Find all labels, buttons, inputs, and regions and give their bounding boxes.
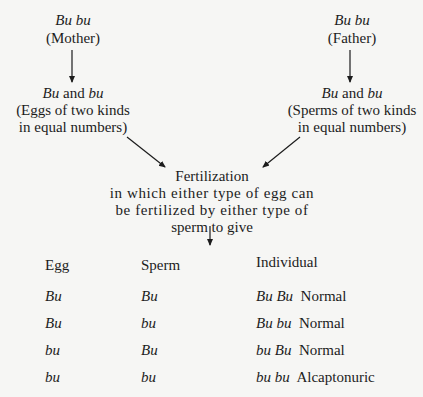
row2-individual: Bu bu Normal [256, 315, 345, 332]
fertilization-line2: be fertilized by either type of [115, 202, 308, 219]
row4-egg: bu [45, 369, 60, 386]
row1-egg: Bu [45, 288, 62, 305]
row1-sperm: Bu [141, 288, 158, 305]
father-genotype: Bu bu [334, 12, 369, 29]
row3-sperm: Bu [141, 342, 158, 359]
father-desc-line2: in equal numbers) [298, 119, 406, 136]
sperms-to-fertilization-arrow [263, 137, 300, 167]
header-egg: Egg [45, 257, 69, 274]
mother-genotype: Bu bu [55, 12, 90, 29]
fertilization-line1: in which either type of egg can [110, 185, 314, 202]
row4-sperm: bu [141, 369, 156, 386]
row2-sperm: bu [141, 315, 156, 332]
father-label: (Father) [328, 30, 376, 47]
mother-label: (Mother) [46, 30, 100, 47]
mother-gametes: Bu and bu [43, 85, 104, 102]
father-gametes: Bu and bu [322, 85, 383, 102]
mother-desc-line1: (Eggs of two kinds [16, 102, 130, 119]
header-individual: Individual [256, 254, 318, 271]
fertilization-line3: sperm to give [171, 219, 253, 236]
fertilization-title: Fertilization [175, 168, 248, 185]
row1-individual: Bu Bu Normal [256, 288, 346, 305]
father-desc-line1: (Sperms of two kinds [288, 102, 417, 119]
header-sperm: Sperm [141, 257, 180, 274]
eggs-to-fertilization-arrow [127, 137, 165, 167]
row2-egg: Bu [45, 315, 62, 332]
mother-desc-line2: in equal numbers) [19, 119, 127, 136]
row3-individual: bu Bu Normal [256, 342, 345, 359]
row4-individual: bu bu Alcaptonuric [256, 369, 375, 386]
row3-egg: bu [45, 342, 60, 359]
